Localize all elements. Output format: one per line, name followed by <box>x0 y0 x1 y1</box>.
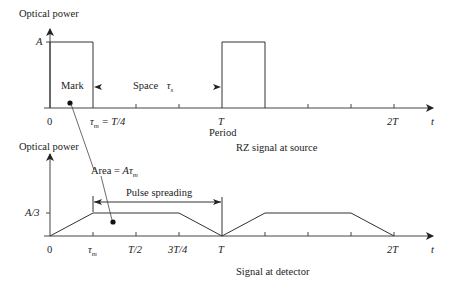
area-leader-top <box>71 104 94 170</box>
space-arrow-left <box>94 84 102 90</box>
bottom-tick-half-T: T/2 <box>128 245 142 256</box>
top-level-label: A <box>36 37 42 48</box>
bottom-y-axis-label: Optical power <box>19 142 79 153</box>
top-tick-tau-m: τm = T/4 <box>90 117 125 130</box>
top-tick-zero: 0 <box>47 117 52 128</box>
bottom-tick-2T: 2T <box>387 245 398 256</box>
area-label: Area = Aτm <box>91 166 138 179</box>
rz-pulse-1 <box>50 42 93 108</box>
top-y-axis-label: Optical power <box>19 9 79 20</box>
pulse-spreading-label: Pulse spreading <box>126 188 192 199</box>
bottom-tick-T: T <box>218 245 224 256</box>
space-symbol: τs <box>167 80 174 91</box>
space-arrow-right <box>213 84 221 90</box>
area-dot-top <box>67 100 72 105</box>
area-text: Area = <box>91 165 123 176</box>
bottom-x-ticks <box>93 232 394 236</box>
period-label: Period <box>209 128 236 139</box>
top-caption: RZ signal at source <box>236 143 317 154</box>
top-tick-2T: 2T <box>387 117 398 128</box>
space-label: Space τs <box>133 81 173 94</box>
bottom-t-axis-label: t <box>431 245 434 256</box>
bottom-tick-three-quarter-T: 3T/4 <box>168 245 187 256</box>
bottom-tick-tau-m: τm <box>88 245 97 258</box>
mark-label: Mark <box>61 81 84 92</box>
area-dot-bottom <box>110 219 115 224</box>
bottom-tick-zero: 0 <box>47 245 52 256</box>
space-text: Space <box>133 80 158 91</box>
top-tick-T: T <box>218 117 224 128</box>
bottom-caption: Signal at detector <box>236 267 309 278</box>
area-symbol: Aτm <box>123 165 138 176</box>
top-t-axis-label: t <box>431 117 434 128</box>
rz-pulse-2 <box>222 42 265 108</box>
bottom-level-label: A/3 <box>25 208 40 219</box>
